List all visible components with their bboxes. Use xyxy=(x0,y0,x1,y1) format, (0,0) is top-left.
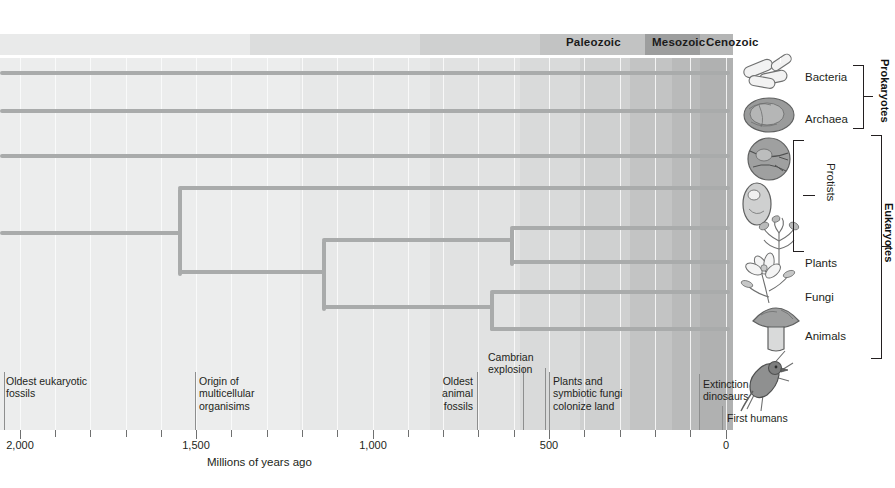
annotation-first-humans: First humans xyxy=(727,412,807,424)
axis-tick xyxy=(549,430,550,439)
annotation-tick-first-humans xyxy=(722,406,723,430)
annotation-origin-multicellular-organisms: Origin of multicellular organisims xyxy=(199,375,309,412)
branch-to-node-c xyxy=(322,238,514,242)
axis-tick xyxy=(478,430,479,437)
era-label-mesozoic: Mesozoic xyxy=(652,36,705,48)
axis-tick xyxy=(373,430,374,439)
branch-to-node-d xyxy=(322,305,494,309)
axis-tick xyxy=(584,430,585,437)
axis-tick xyxy=(267,430,268,437)
axis-tick xyxy=(126,430,127,437)
axis-tick xyxy=(337,430,338,437)
bracket-prokaryotes-stem xyxy=(863,96,873,97)
group-label-prokaryotes: Prokaryotes xyxy=(879,59,891,123)
axis-label-1000: 1,000 xyxy=(359,439,387,451)
annotation-tick-origin-multicellular xyxy=(195,372,196,430)
axis-tick xyxy=(443,430,444,437)
axis-tick xyxy=(90,430,91,437)
axis-tick xyxy=(408,430,409,437)
bracket-prokaryotes xyxy=(853,65,864,129)
mushroom-icon xyxy=(749,301,803,353)
node-b-split xyxy=(322,240,326,311)
bracket-eukaryotes xyxy=(871,135,882,359)
archaea-cell-icon xyxy=(741,95,797,135)
axis-label-2000: 2,000 xyxy=(6,439,34,451)
geologic-era-bar xyxy=(0,34,733,55)
axis-tick xyxy=(302,430,303,437)
axis-tick xyxy=(161,430,162,437)
axis-label-0: 0 xyxy=(723,439,729,451)
branch-bacteria xyxy=(0,71,730,75)
node-eukaryote-split xyxy=(178,188,182,276)
axis-label-500: 500 xyxy=(540,439,558,451)
era-label-cenozoic: Cenozoic xyxy=(706,36,759,48)
annotation-tick-extinction-dinosaurs xyxy=(699,374,700,430)
panel-divider xyxy=(780,58,781,63)
annotation-tick-plants-fungi-land xyxy=(549,372,550,430)
bracket-protists-stem xyxy=(803,195,815,196)
node-d-split xyxy=(490,292,494,331)
annotation-plants-symbiotic-fungi-colonize-land: Plants and symbiotic fungi colonize land xyxy=(553,375,663,412)
axis-tick xyxy=(620,430,621,437)
flowering-plant-icon xyxy=(739,251,795,303)
annotation-tick-oldest-animal-fossils xyxy=(477,372,478,430)
branch-protist-3 xyxy=(178,186,730,190)
taxon-label-animals: Animals xyxy=(805,330,846,342)
axis-tick xyxy=(196,430,197,439)
branch-protist-1 xyxy=(0,154,730,158)
annotation-cambrian-explosion: Cambrian explosion xyxy=(488,351,578,376)
branch-animals xyxy=(490,327,730,331)
taxon-label-archaea: Archaea xyxy=(805,113,848,125)
taxon-label-protists: Protists xyxy=(825,163,837,201)
protist-cluster-icon xyxy=(743,135,795,183)
taxon-label-plants: Plants xyxy=(805,257,837,269)
branch-protist-2-stem xyxy=(0,231,182,235)
axis-tick xyxy=(690,430,691,437)
taxon-label-bacteria: Bacteria xyxy=(805,71,847,83)
taxon-label-fungi: Fungi xyxy=(805,291,834,303)
axis-title: Millions of years ago xyxy=(207,456,312,468)
group-label-eukaryotes: Eukaryotes xyxy=(883,203,895,262)
time-axis: 2,000 1,500 1,000 500 0 Millions of year… xyxy=(0,430,760,488)
annotation-oldest-animal-fossils: Oldest animal fossils xyxy=(413,375,473,412)
era-label-paleozoic: Paleozoic xyxy=(566,36,621,48)
taxa-panel: Bacteria Archaea Protists Plants Fungi A… xyxy=(733,55,895,375)
branch-to-node-b xyxy=(178,270,326,274)
bracket-protists xyxy=(793,140,804,252)
annotation-tick-cambrian-b xyxy=(545,368,546,430)
axis-tick xyxy=(655,430,656,437)
annotation-tick-cambrian-a xyxy=(523,368,524,430)
branch-protist-4 xyxy=(510,226,730,230)
branch-plants xyxy=(510,260,730,264)
branch-archaea xyxy=(0,109,730,113)
phylogenetic-tree-figure: Paleozoic Mesozoic Cenozoic xyxy=(0,0,895,488)
axis-tick xyxy=(231,430,232,437)
annotation-oldest-eukaryotic-fossils: Oldest eukaryotic fossils xyxy=(6,375,126,400)
axis-tick xyxy=(20,430,21,439)
axis-tick xyxy=(514,430,515,437)
bird-icon xyxy=(737,347,799,413)
bacteria-rods-icon xyxy=(737,55,799,95)
axis-label-1500: 1,500 xyxy=(182,439,210,451)
axis-tick xyxy=(726,430,727,439)
branch-fungi xyxy=(490,290,730,294)
axis-tick xyxy=(55,430,56,437)
annotation-tick-oldest-eukaryotic-fossils xyxy=(4,372,5,430)
